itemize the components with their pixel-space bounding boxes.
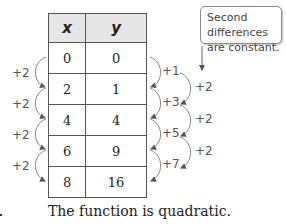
x-diff-label: +2	[12, 159, 30, 173]
second-diff-arrows	[180, 73, 191, 168]
caption: The function is quadratic.	[48, 203, 231, 219]
first-diff-label: +5	[162, 126, 180, 140]
callout-box: Second differences are constant.	[200, 6, 282, 44]
x-diff-label: +2	[12, 66, 30, 80]
x-diff-label: +2	[12, 128, 30, 142]
first-diff-label: +1	[162, 64, 180, 78]
list-marker	[0, 214, 2, 216]
second-diff-label: +2	[195, 80, 213, 94]
first-diff-label: +7	[162, 157, 180, 171]
first-diff-arrows	[150, 57, 161, 181]
second-diff-label: +2	[195, 144, 213, 158]
x-diff-arrows	[35, 57, 46, 181]
callout-line-2: are constant.	[207, 40, 281, 55]
second-diff-label: +2	[195, 112, 213, 126]
x-diff-label: +2	[12, 97, 30, 111]
callout-line-1: Second differences	[207, 10, 281, 40]
first-diff-label: +3	[162, 95, 180, 109]
